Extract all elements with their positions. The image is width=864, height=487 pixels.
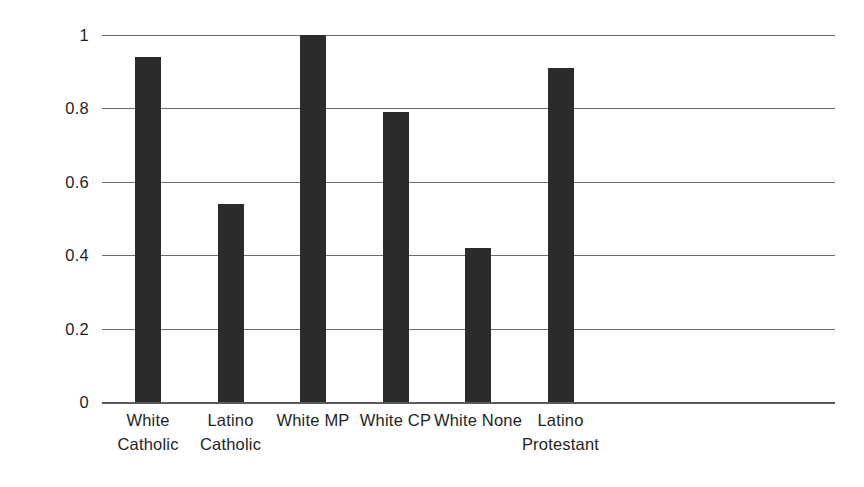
plot-area: 00.20.40.60.81 [102, 35, 835, 402]
y-axis-title: Mean Hours [0, 0, 44, 487]
bars-layer [102, 35, 835, 402]
bar [465, 248, 491, 402]
x-axis-label: LatinoProtestant [491, 408, 631, 456]
y-tick-label: 1 [80, 26, 89, 45]
y-tick-label: 0.8 [65, 99, 89, 118]
bar [135, 57, 161, 402]
bar-chart: Mean Hours 00.20.40.60.81 WhiteCatholicL… [0, 0, 864, 487]
bar [383, 112, 409, 402]
bar [548, 68, 574, 402]
y-tick-label: 0.6 [65, 172, 89, 191]
x-axis-label-line: Latino [491, 408, 631, 432]
y-tick-label: 0.4 [65, 246, 89, 265]
x-axis-category-labels: WhiteCatholicLatinoCatholicWhite MPWhite… [102, 408, 835, 478]
bar [218, 204, 244, 402]
bar [300, 35, 326, 402]
y-tick-label: 0.2 [65, 319, 89, 338]
gridline-0: 0 [102, 402, 835, 404]
x-axis-label-line: Catholic [161, 432, 301, 456]
x-axis-label-line: Protestant [491, 432, 631, 456]
